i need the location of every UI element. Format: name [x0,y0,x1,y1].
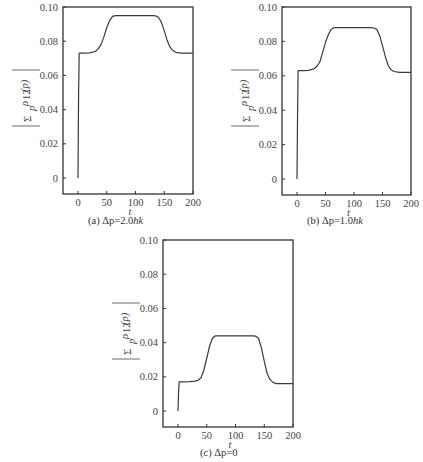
x-tick-label: 50 [202,430,213,441]
svg-text:(p): (p) [119,312,131,325]
y-tick-label: 0.04 [140,337,159,348]
plot-frame [163,240,293,427]
data-line [178,336,293,411]
y-tick-label: 0.08 [140,269,158,280]
chart-c-plot: 00.020.040.060.080.10050100150200tΣpρ12(… [0,0,423,462]
y-tick-label: 0.02 [140,371,158,382]
y-tick-label: 0.06 [140,303,158,314]
svg-text:Σ: Σ [122,349,133,355]
x-tick-label: 200 [285,430,301,441]
caption-prefix: (c) [200,447,212,458]
chart-panel-c: 00.020.040.060.080.10050100150200tΣpρ12(… [0,0,423,462]
x-tick-label: 0 [175,430,180,441]
chart-c-caption: (c) Δp=0 [200,447,237,458]
y-tick-label: 0.10 [140,235,158,246]
x-tick-label: 150 [256,430,272,441]
svg-text:ρ: ρ [119,334,130,340]
y-axis-label: Σpρ12(p) [112,303,140,359]
y-tick-label: 0 [153,406,158,417]
caption-main: Δp=0 [214,447,237,458]
